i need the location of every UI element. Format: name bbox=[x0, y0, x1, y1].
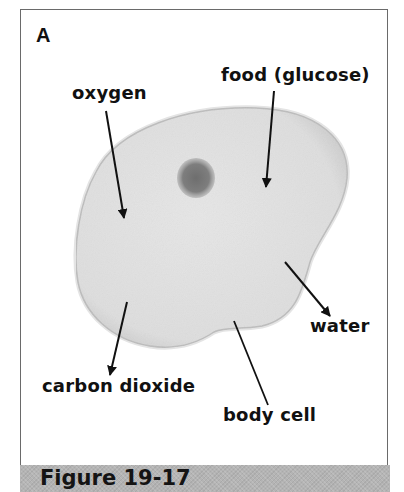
label-oxygen: oxygen bbox=[72, 82, 147, 103]
label-water: water bbox=[310, 315, 369, 336]
panel-letter: A bbox=[36, 24, 50, 47]
figure-caption-bar: Figure 19-17 bbox=[20, 465, 390, 492]
label-food-glucose: food (glucose) bbox=[221, 64, 370, 85]
figure-caption: Figure 19-17 bbox=[40, 466, 191, 490]
body-cell-pointer bbox=[234, 321, 268, 405]
nucleus bbox=[177, 158, 215, 198]
label-carbon-dioxide: carbon dioxide bbox=[42, 375, 195, 396]
label-body-cell: body cell bbox=[223, 404, 316, 425]
